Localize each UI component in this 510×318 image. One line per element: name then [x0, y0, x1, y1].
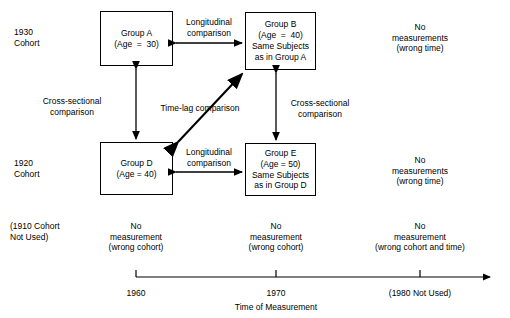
tick-label-1960: 1960 [127, 288, 146, 299]
group-d-box[interactable]: Group D (Age = 40) [100, 142, 173, 195]
cohort-sequential-design-diagram: 1930 Cohort 1920 Cohort (1910 Cohort Not… [0, 0, 510, 318]
group-d-label: Group D (Age = 40) [117, 158, 157, 180]
no-measure-1910-1970: No measurement (wrong cohort) [249, 221, 304, 253]
longitudinal-bottom-label: Longitudinal comparison [186, 147, 232, 168]
group-a-box[interactable]: Group A (Age = 30) [100, 11, 173, 66]
cohort-1930-label: 1930 Cohort [14, 27, 40, 48]
axis-title: Time of Measurement [235, 302, 317, 313]
no-measure-1910-1960: No measurement (wrong cohort) [109, 221, 164, 253]
group-e-box[interactable]: Group E (Age = 50) Same Subjects as in G… [245, 143, 316, 196]
group-b-label: Group B (Age = 40) Same Subjects as in G… [252, 19, 309, 62]
cross-sectional-right-label: Cross-sectional comparison [291, 98, 350, 119]
cohort-1910-label: (1910 Cohort Not Used) [10, 221, 60, 242]
no-measure-1920-1980: No measurements (wrong time) [392, 155, 448, 187]
time-lag-label: Time-lag comparison [160, 103, 239, 114]
group-e-label: Group E (Age = 50) Same Subjects as in G… [252, 148, 309, 191]
group-a-label: Group A (Age = 30) [114, 28, 159, 50]
tick-label-1970: 1970 [267, 288, 286, 299]
time-axis [136, 270, 490, 277]
longitudinal-top-label: Longitudinal comparison [186, 17, 232, 38]
tick-label-1980: (1980 Not Used) [389, 288, 451, 299]
no-measure-1930-1980: No measurements (wrong time) [392, 22, 448, 54]
group-b-box[interactable]: Group B (Age = 40) Same Subjects as in G… [245, 12, 316, 70]
cohort-1920-label: 1920 Cohort [14, 158, 40, 179]
no-measure-1910-1980: No measurement (wrong cohort and time) [375, 221, 465, 253]
cross-sectional-left-label: Cross-sectional comparison [43, 96, 102, 117]
